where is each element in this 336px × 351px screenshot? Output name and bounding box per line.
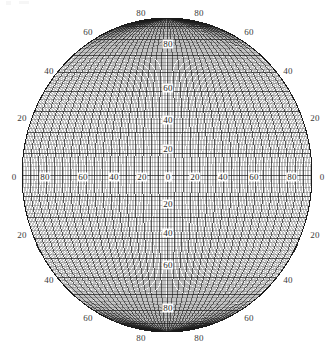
equator-label-lon-80-east: 80 [286, 173, 297, 182]
meridian-label-lat-80-south: 80 [162, 304, 173, 313]
outer-label-lat-40-bottom-left: 40 [44, 275, 53, 285]
outer-label-lat-40-top-right: 40 [283, 66, 292, 76]
outer-label-lat-40-top-left: 40 [44, 66, 53, 76]
projection-figure: 8080606040402020002020404060608080 80604… [0, 0, 336, 351]
outer-label-lat-80-bottom-left: 80 [136, 333, 145, 343]
meridian-label-lat-80-north: 80 [162, 40, 173, 49]
outer-label-lat-80-bottom-right: 80 [194, 333, 203, 343]
equator-label-lon-60-west: 60 [77, 173, 88, 182]
equator-label-lon-20-east: 20 [189, 173, 200, 182]
outer-label-lat-80-top-left: 80 [136, 8, 145, 18]
outer-label-lat-60-bottom-right: 60 [244, 313, 253, 323]
outer-label-lat-60-top-left: 60 [83, 27, 92, 37]
outer-label-lat-40-bottom-right: 40 [283, 275, 292, 285]
meridian-label-lat-40-south: 40 [162, 229, 173, 238]
equator-label-lon-80-west: 80 [39, 173, 50, 182]
outer-label-lat-20-bottom-left: 20 [17, 230, 26, 240]
equator-label-lon-60-east: 60 [248, 173, 259, 182]
meridian-label-lat-20-north: 20 [162, 145, 173, 154]
outer-label-lat-20-top-right: 20 [310, 113, 319, 123]
outer-label-lat-60-top-right: 60 [244, 27, 253, 37]
meridian-label-lat-60-north: 60 [162, 84, 173, 93]
outer-label-lat-0-right: 0 [320, 172, 325, 182]
meridian-label-lat-40-north: 40 [162, 116, 173, 125]
outer-label-lat-80-top-right: 80 [194, 8, 203, 18]
outer-label-lat-60-bottom-left: 60 [83, 313, 92, 323]
meridian-label-lat-0: 0 [165, 173, 172, 182]
outer-label-lat-20-bottom-right: 20 [310, 230, 319, 240]
outer-label-lat-0-left: 0 [12, 172, 17, 182]
meridian-label-lat-20-south: 20 [162, 200, 173, 209]
meridian-label-lat-60-south: 60 [162, 261, 173, 270]
equator-label-lon-40-east: 40 [217, 173, 228, 182]
outer-label-lat-20-top-left: 20 [17, 113, 26, 123]
equator-label-lon-40-west: 40 [108, 173, 119, 182]
equator-label-lon-20-west: 20 [136, 173, 147, 182]
